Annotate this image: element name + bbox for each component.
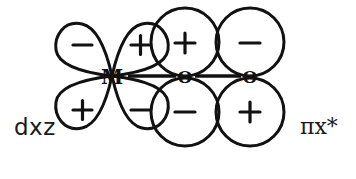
diagram-canvas: d-orbital to pi-antibonding orbital over… [0, 0, 356, 179]
sign-d-bottom-left-plus [73, 101, 92, 120]
orbital-diagram: M O O [0, 0, 356, 179]
label-dxz: dxz [14, 116, 56, 139]
atom-label-o1: O [178, 67, 193, 87]
atom-label-o2: O [243, 67, 258, 87]
sign-d-top-right-plus [131, 36, 150, 55]
sign-p1-top-plus [175, 33, 195, 53]
atom-label-m: M [101, 65, 123, 89]
label-pi-x-star: πx* [300, 116, 338, 138]
sign-p2-bottom-plus [240, 102, 260, 122]
